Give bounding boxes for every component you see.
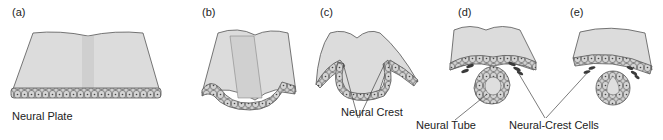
panel-label-a: (a)	[12, 6, 25, 18]
neural-tube-diagram: (a) (b) (c) (d) (e) Neural Plate Neural …	[0, 0, 663, 140]
panel-a-neural-plate-drawing	[11, 32, 161, 98]
panel-c-neural-groove-drawing	[316, 31, 418, 118]
panel-label-c: (c)	[320, 6, 333, 18]
panel-label-d: (d)	[458, 6, 471, 18]
panel-d-neural-tube-closing-drawing	[450, 27, 545, 121]
panel-label-e: (e)	[570, 6, 583, 18]
panel-label-b: (b)	[202, 6, 215, 18]
label-neural-plate: Neural Plate	[12, 110, 73, 122]
panel-b-neural-folds-drawing	[202, 30, 296, 110]
panel-e-neural-tube-closed-drawing	[546, 28, 652, 118]
label-neural-crest-cells: Neural-Crest Cells	[509, 119, 599, 131]
label-neural-tube: Neural Tube	[416, 119, 476, 131]
label-neural-crest: Neural Crest	[341, 106, 403, 118]
